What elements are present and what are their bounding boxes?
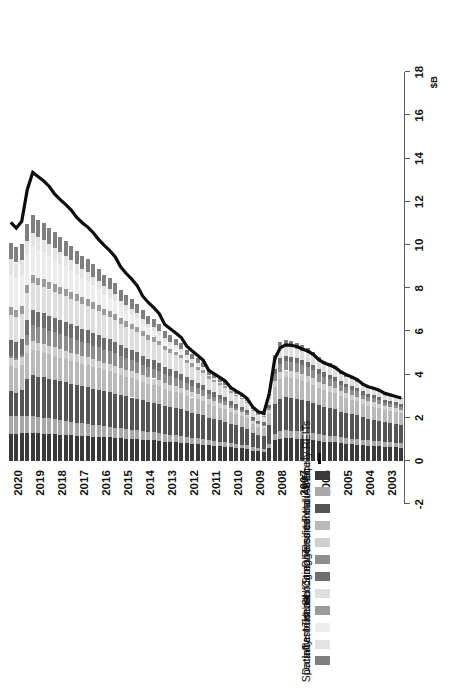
legend-line-marker <box>318 453 321 464</box>
legend-item-label: All Equity REITs <box>300 420 312 496</box>
legend-item[interactable]: All Equity REITs <box>300 420 321 496</box>
plot-area: -2024681012141618$B200320042005200620072… <box>0 0 461 693</box>
rotated-canvas: -2024681012141618$B200320042005200620072… <box>0 0 461 693</box>
chart-figure: -2024681012141618$B200320042005200620072… <box>0 0 461 693</box>
chart-legend: SpecialtyData CentersInfrastructureTimbe… <box>0 0 461 693</box>
